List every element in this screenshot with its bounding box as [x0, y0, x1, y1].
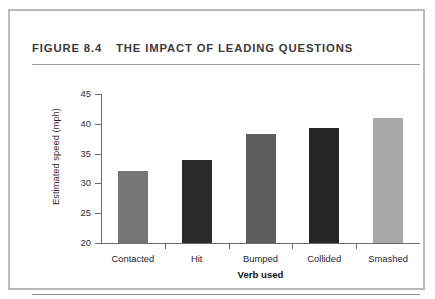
bar-hit — [182, 160, 212, 243]
figure-title: THE IMPACT OF LEADING QUESTIONS — [116, 42, 353, 54]
x-axis-tick — [356, 243, 357, 249]
x-axis-label-smashed: Smashed — [356, 253, 420, 264]
x-axis-line — [101, 243, 420, 244]
x-axis-label-contacted: Contacted — [101, 253, 165, 264]
x-axis-label-bumped: Bumped — [229, 253, 293, 264]
y-axis-tick — [95, 183, 102, 184]
y-axis-line — [101, 94, 102, 244]
x-axis-title: Verb used — [101, 269, 420, 280]
bar-collided — [309, 128, 339, 243]
y-axis-tick — [95, 154, 102, 155]
figure-page-frame: FIGURE 8.4 THE IMPACT OF LEADING QUESTIO… — [8, 9, 425, 290]
y-axis-tick-label: 45 — [66, 89, 91, 98]
x-axis-tick — [229, 243, 230, 249]
figure-header: FIGURE 8.4 THE IMPACT OF LEADING QUESTIO… — [32, 35, 422, 61]
y-axis-tick — [95, 243, 102, 244]
x-axis-tick — [292, 243, 293, 249]
bar-contacted — [118, 171, 148, 243]
footer-divider — [32, 294, 420, 295]
plot-area: 202530354045ContactedHitBumpedCollidedSm… — [28, 75, 428, 285]
y-axis-tick — [95, 213, 102, 214]
y-axis-tick-label: 25 — [66, 208, 91, 217]
x-axis-tick — [165, 243, 166, 249]
bar-chart: Estimated speed (mph) 202530354045Contac… — [28, 75, 428, 285]
y-axis-tick-label: 20 — [66, 238, 91, 247]
y-axis-tick-label: 35 — [66, 149, 91, 158]
bar-smashed — [373, 118, 403, 243]
y-axis-tick-label: 40 — [66, 119, 91, 128]
x-axis-label-hit: Hit — [165, 253, 229, 264]
x-axis-label-collided: Collided — [292, 253, 356, 264]
header-divider — [32, 64, 420, 65]
bar-bumped — [246, 134, 276, 243]
y-axis-tick — [95, 94, 102, 95]
y-axis-tick — [95, 124, 102, 125]
y-axis-tick-label: 30 — [66, 178, 91, 187]
figure-number: FIGURE 8.4 — [32, 42, 102, 54]
